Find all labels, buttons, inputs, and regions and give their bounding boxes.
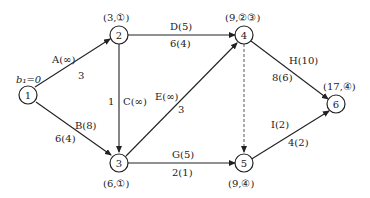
node-2-annotation: (3,①) bbox=[103, 12, 129, 23]
node-3-label: 3 bbox=[116, 158, 122, 169]
edge-e-name: E(∞) bbox=[155, 91, 179, 102]
start-label: b₁=0 bbox=[16, 74, 42, 85]
edge-b-name: B(8) bbox=[75, 120, 97, 131]
edges bbox=[35, 35, 329, 163]
edge-i-name: I(2) bbox=[271, 119, 289, 130]
node-4: 4 (9,②③) bbox=[225, 12, 260, 44]
edge-c-value: 1 bbox=[108, 96, 114, 107]
edge-labels: A(∞) 3 B(8) 6(4) C(∞) 1 D(5) 6(4) E(∞) 3… bbox=[51, 21, 318, 178]
edge-e-value: 3 bbox=[178, 104, 184, 115]
edge-h-value: 8(6) bbox=[272, 72, 293, 83]
node-5-annotation: (9,④) bbox=[228, 178, 254, 189]
node-2-label: 2 bbox=[116, 30, 122, 41]
node-1-label: 1 bbox=[25, 90, 31, 101]
edge-a-value: 3 bbox=[78, 70, 84, 81]
edge-a-name: A(∞) bbox=[51, 54, 75, 65]
node-4-label: 4 bbox=[241, 30, 247, 41]
node-2: 2 (3,①) bbox=[103, 12, 129, 44]
edge-g-name: G(5) bbox=[172, 149, 194, 160]
node-6-annotation: (17,④) bbox=[323, 81, 356, 92]
edge-i-value: 4(2) bbox=[288, 137, 309, 148]
edge-h bbox=[251, 41, 328, 99]
edge-b-value: 6(4) bbox=[55, 133, 76, 144]
node-6: 6 (17,④) bbox=[323, 81, 356, 113]
edge-h-name: H(10) bbox=[289, 55, 318, 66]
node-5: 5 (9,④) bbox=[228, 154, 254, 189]
node-5-label: 5 bbox=[241, 158, 247, 169]
node-3: 3 (6,①) bbox=[103, 154, 129, 189]
node-4-annotation: (9,②③) bbox=[225, 12, 260, 23]
edge-d-name: D(5) bbox=[170, 21, 192, 32]
edge-g-value: 2(1) bbox=[172, 167, 193, 178]
edge-d-value: 6(4) bbox=[170, 38, 191, 49]
network-diagram: A(∞) 3 B(8) 6(4) C(∞) 1 D(5) 6(4) E(∞) 3… bbox=[0, 0, 370, 198]
edge-i bbox=[250, 111, 329, 160]
edge-b bbox=[36, 102, 111, 155]
edge-c-name: C(∞) bbox=[123, 96, 147, 107]
node-3-annotation: (6,①) bbox=[103, 178, 129, 189]
node-1: 1 b₁=0 bbox=[16, 74, 42, 104]
node-6-label: 6 bbox=[333, 99, 339, 110]
